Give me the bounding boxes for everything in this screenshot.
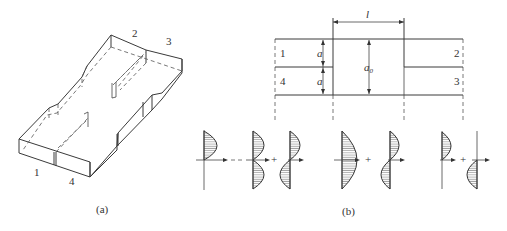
a0-label: a0 — [364, 61, 374, 75]
field-even-mode-1 — [246, 131, 270, 189]
length-l-label: l — [366, 8, 369, 20]
a-lower-label: a — [317, 75, 323, 87]
port-2-label: 2 — [132, 27, 138, 39]
coupler-diagram: 1 4 2 3 (a) l a a a0 1 4 2 — [0, 0, 507, 231]
field-output-lower — [467, 131, 490, 189]
field-odd-mode-1 — [280, 131, 304, 189]
field-output-upper — [440, 131, 456, 189]
plus-operator-3: + — [460, 153, 466, 165]
a-upper-label: a — [317, 47, 323, 59]
coupler-schematic: l a a a0 1 4 2 3 — [275, 8, 463, 120]
port-4-label-b: 4 — [280, 75, 286, 87]
port-3-label-b: 3 — [454, 75, 460, 87]
caption-a: (a) — [96, 203, 109, 216]
port-1-label: 1 — [34, 166, 40, 178]
plus-operator-2: + — [365, 153, 371, 165]
field-even-mode-2 — [334, 131, 360, 189]
caption-b: (b) — [342, 205, 355, 218]
field-input-upper — [196, 130, 228, 190]
port-2-label-b: 2 — [454, 47, 460, 59]
port-4-label: 4 — [69, 175, 75, 187]
waveguide-isometric: 1 4 2 3 (a) — [19, 27, 182, 216]
field-distributions: + + + — [196, 130, 490, 218]
port-3-label: 3 — [166, 35, 172, 47]
field-odd-mode-2 — [381, 131, 405, 189]
port-1-label-b: 1 — [280, 47, 286, 59]
plus-operator-1: + — [271, 153, 277, 165]
